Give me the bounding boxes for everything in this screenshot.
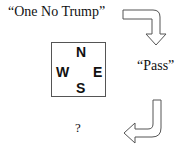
seat-east: E [93,65,102,79]
arrow-right-down-icon [123,10,166,45]
bid-unknown: ? [75,120,81,136]
seat-north: N [76,45,86,59]
arrow-down-left-icon [124,100,161,143]
seat-west: W [56,65,69,79]
seat-south: S [76,81,85,95]
bid-pass: “Pass” [137,58,174,74]
compass-table: N W E S [51,42,106,97]
